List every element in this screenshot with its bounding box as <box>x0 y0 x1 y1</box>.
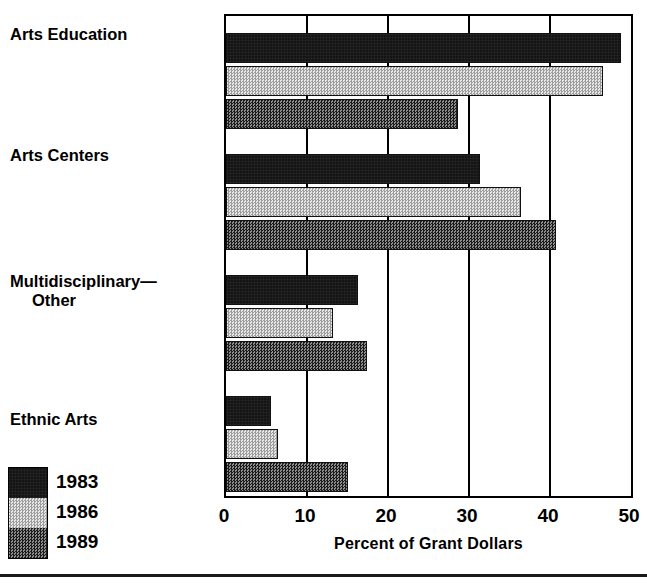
legend-swatch-1989 <box>9 528 47 558</box>
bar-1983-arts-centers <box>226 154 480 184</box>
category-label-multidisciplinary: Multidisciplinary—Other <box>10 272 210 310</box>
bar-1989-ethnic-arts <box>226 462 348 492</box>
bar-1986-arts-education <box>226 66 603 96</box>
legend-swatch-1983 <box>9 468 47 498</box>
footer-divider <box>0 574 647 577</box>
category-label-arts-centers: Arts Centers <box>10 146 210 165</box>
legend-label-1983: 1983 <box>56 471 98 493</box>
x-tick-label-20: 20 <box>366 505 406 527</box>
bar-1989-arts-education <box>226 99 458 129</box>
legend-swatch-1986 <box>9 498 47 528</box>
x-tick-label-0: 0 <box>204 505 244 527</box>
chart-legend <box>8 467 48 559</box>
bar-1989-arts-centers <box>226 220 556 250</box>
category-label-arts-education: Arts Education <box>10 25 210 44</box>
bar-1983-multidisciplinary--other <box>226 275 358 305</box>
x-tick-label-40: 40 <box>528 505 568 527</box>
legend-label-1986: 1986 <box>56 501 98 523</box>
legend-label-1989: 1989 <box>56 531 98 553</box>
bar-1986-multidisciplinary--other <box>226 308 333 338</box>
x-axis-label: Percent of Grant Dollars <box>224 535 633 553</box>
bar-1989-multidisciplinary--other <box>226 341 367 371</box>
bar-1983-arts-education <box>226 33 621 63</box>
category-label-ethnic-arts: Ethnic Arts <box>10 410 210 429</box>
bar-1986-ethnic-arts <box>226 429 278 459</box>
x-tick-label-30: 30 <box>447 505 487 527</box>
chart-plot-area <box>224 14 633 498</box>
bar-1986-arts-centers <box>226 187 521 217</box>
x-tick-label-10: 10 <box>285 505 325 527</box>
x-tick-label-50: 50 <box>609 505 647 527</box>
bar-1983-ethnic-arts <box>226 396 271 426</box>
